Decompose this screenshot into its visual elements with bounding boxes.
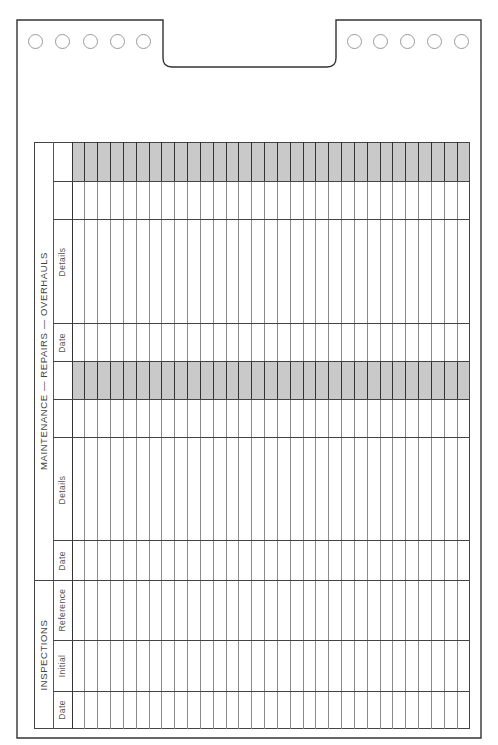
row-divider [53,437,470,438]
shaded-separator [341,361,342,399]
shaded-separator [136,142,137,181]
shaded-separator [315,361,316,399]
shaded-separator [380,142,381,181]
inspection-initial-header: Initial [57,655,67,678]
shaded-separator [149,361,150,399]
shaded-separator [251,142,252,181]
shaded-separator [405,142,406,181]
maintenance-details-header-2: Details [57,476,67,505]
shaded-separator [303,361,304,399]
shaded-separator [367,361,368,399]
shaded-separator [226,142,227,181]
maintenance-date-header-2: Date [57,551,67,571]
shaded-separator [213,142,214,181]
shaded-separator [418,361,419,399]
shaded-separator [123,361,124,399]
shaded-separator [251,361,252,399]
inspection-date-header: Date [57,700,67,720]
row-divider [53,640,470,641]
shaded-separator [431,361,432,399]
maintenance-date-header-1: Date [57,333,67,353]
maintenance-details-header-1: Details [57,248,67,277]
shaded-separator [315,142,316,181]
shaded-separator [457,142,458,181]
maintenance-section-title: MAINTENANCE — REPAIRS — OVERHAULS [38,252,49,470]
shaded-separator [238,361,239,399]
shaded-separator [174,361,175,399]
binder-hole-icon [83,34,98,49]
shaded-separator [392,142,393,181]
shaded-separator [200,142,201,181]
inspection-reference-header: Reference [57,589,67,632]
shaded-separator [418,142,419,181]
binder-hole-icon [55,34,70,49]
binder-hole-icon [28,34,43,49]
shaded-separator [380,361,381,399]
shaded-separator [161,361,162,399]
shaded-separator [290,361,291,399]
section-divider [34,580,470,581]
shaded-separator [354,142,355,181]
binder-hole-icon [427,34,442,49]
shaded-separator [174,142,175,181]
shaded-separator [110,142,111,181]
shaded-separator [277,361,278,399]
shaded-separator [341,142,342,181]
shaded-separator [187,361,188,399]
shaded-separator [110,361,111,399]
binder-hole-icon [373,34,388,49]
record-card: MAINTENANCE — REPAIRS — OVERHAULS INSPEC… [0,0,498,745]
shaded-separator [84,142,85,181]
row-divider [53,181,470,182]
shaded-separator [200,361,201,399]
shaded-separator [264,142,265,181]
shaded-separator [277,142,278,181]
shaded-separator [328,361,329,399]
row-divider [53,323,470,324]
binder-hole-icon [400,34,415,49]
shaded-separator [457,361,458,399]
row-divider [53,219,470,220]
shaded-separator [213,361,214,399]
shaded-separator [444,142,445,181]
shaded-separator [136,361,137,399]
shaded-separator [431,142,432,181]
binder-hole-icon [110,34,125,49]
shaded-separator [84,361,85,399]
shaded-separator [123,142,124,181]
inspections-section-title: INSPECTIONS [38,620,49,691]
binder-hole-icon [136,34,151,49]
shaded-separator [97,361,98,399]
row-divider [53,361,470,362]
binder-hole-icon [347,34,362,49]
shaded-separator [238,142,239,181]
binder-hole-icon [454,34,469,49]
shaded-separator [264,361,265,399]
shaded-separator [328,142,329,181]
shaded-separator [187,142,188,181]
shaded-separator [290,142,291,181]
shaded-separator [226,361,227,399]
row-divider [53,691,470,692]
shaded-separator [97,142,98,181]
shaded-separator [354,361,355,399]
shaded-separator [303,142,304,181]
row-divider [53,540,470,541]
shaded-separator [367,142,368,181]
row-divider [53,399,470,400]
shaded-separator [444,361,445,399]
shaded-separator [392,361,393,399]
shaded-separator [405,361,406,399]
shaded-separator [161,142,162,181]
shaded-separator [149,142,150,181]
